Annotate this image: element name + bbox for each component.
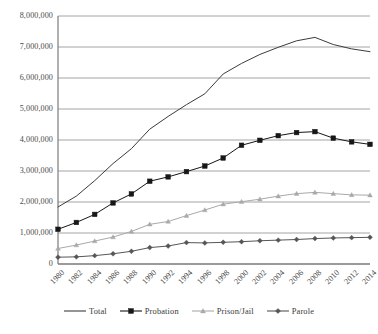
data-point bbox=[349, 140, 354, 145]
data-point bbox=[111, 251, 116, 256]
y-tick-label: 1,000,000 bbox=[20, 228, 53, 237]
data-point bbox=[202, 240, 207, 245]
legend-swatch-diamond-icon bbox=[267, 306, 289, 316]
data-point bbox=[239, 239, 244, 244]
data-point bbox=[111, 201, 116, 206]
y-tick-label: 0 bbox=[49, 259, 53, 268]
y-tick-label: 7,000,000 bbox=[20, 42, 53, 51]
data-point bbox=[294, 130, 299, 135]
y-tick-label: 5,000,000 bbox=[20, 104, 53, 113]
data-point bbox=[184, 169, 189, 174]
legend-item-prison-jail[interactable]: Prison/Jail bbox=[192, 306, 254, 316]
legend-item-probation[interactable]: Probation bbox=[120, 306, 179, 316]
data-point bbox=[92, 212, 97, 217]
legend-item-total[interactable]: Total bbox=[64, 306, 107, 316]
legend-swatch-line-icon bbox=[64, 306, 86, 316]
legend-item-parole[interactable]: Parole bbox=[267, 306, 314, 316]
data-point bbox=[74, 220, 79, 225]
data-point bbox=[349, 235, 354, 240]
legend-label: Total bbox=[89, 307, 107, 316]
data-point bbox=[129, 249, 134, 254]
data-point bbox=[331, 235, 336, 240]
series-line-probation bbox=[58, 132, 370, 230]
data-point bbox=[147, 179, 152, 184]
legend-label: Prison/Jail bbox=[217, 307, 254, 316]
data-point bbox=[129, 192, 134, 197]
data-point bbox=[312, 236, 317, 241]
data-point bbox=[239, 143, 244, 148]
y-tick-label: 8,000,000 bbox=[20, 11, 53, 20]
series-line-total bbox=[58, 37, 370, 207]
data-point bbox=[166, 175, 171, 180]
data-point bbox=[184, 240, 189, 245]
data-point bbox=[313, 129, 318, 134]
series-line-parole bbox=[58, 237, 370, 257]
data-point bbox=[368, 142, 373, 147]
data-point bbox=[276, 238, 281, 243]
legend-swatch-triangle-icon bbox=[192, 306, 214, 316]
y-tick-label: 6,000,000 bbox=[20, 73, 53, 82]
data-point bbox=[276, 133, 281, 138]
series-line-prison-jail bbox=[58, 192, 370, 248]
data-point bbox=[257, 238, 262, 243]
line-chart: 01,000,0002,000,0003,000,0004,000,0005,0… bbox=[0, 0, 378, 334]
data-point bbox=[258, 138, 263, 143]
data-point bbox=[166, 244, 171, 249]
data-point bbox=[203, 164, 208, 169]
data-point bbox=[294, 237, 299, 242]
data-point bbox=[368, 235, 373, 240]
legend-label: Probation bbox=[145, 307, 179, 316]
y-tick-label: 3,000,000 bbox=[20, 166, 53, 175]
data-point bbox=[331, 136, 336, 141]
legend-swatch-square-icon bbox=[120, 306, 142, 316]
data-point bbox=[56, 255, 61, 260]
data-point bbox=[56, 227, 61, 232]
data-point bbox=[221, 156, 226, 161]
data-point bbox=[147, 245, 152, 250]
data-point bbox=[74, 254, 79, 259]
legend-label: Parole bbox=[292, 307, 314, 316]
y-tick-label: 4,000,000 bbox=[20, 135, 53, 144]
chart-legend: TotalProbationPrison/JailParole bbox=[0, 306, 378, 316]
data-point bbox=[221, 240, 226, 245]
y-tick-label: 2,000,000 bbox=[20, 197, 53, 206]
data-point bbox=[92, 253, 97, 258]
